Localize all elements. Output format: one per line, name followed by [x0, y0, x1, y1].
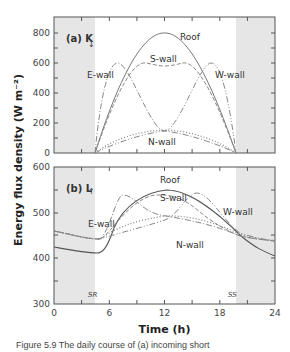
label-b-roof: Roof: [160, 175, 181, 185]
label-b-nwall: N-wall: [176, 240, 204, 250]
panel-a-xticks: [82, 17, 248, 153]
panel-b-arrow: ↑: [88, 187, 95, 196]
xtick-labels: 0 6 12 18 24: [51, 308, 281, 318]
x-axis-label: Time (h): [139, 323, 191, 336]
y-axis-label: Energy flux density (W m⁻²): [12, 74, 25, 246]
label-a-swall: S-wall: [150, 54, 177, 64]
svg-text:400: 400: [33, 88, 50, 98]
svg-text:400: 400: [33, 253, 50, 263]
label-a-ewall: E-wall: [87, 70, 114, 80]
svg-text:500: 500: [33, 208, 50, 218]
label-a-roof: Roof: [180, 32, 201, 42]
svg-text:6: 6: [106, 308, 112, 318]
curve-a-roof: [95, 33, 236, 153]
svg-text:600: 600: [33, 58, 50, 68]
panel-a-ytick-labels: 0 200 400 600 800: [33, 28, 50, 158]
panel-a-curves: [95, 33, 236, 153]
night-shade-evening-a: [236, 17, 275, 153]
label-b-wwall: W-wall: [223, 207, 253, 217]
night-shade-evening-b: [236, 167, 275, 304]
panel-b-ytick-labels: 300 400 500 600: [33, 162, 50, 309]
sunset-label: SS: [228, 291, 237, 299]
panel-a-arrow: ↓: [88, 40, 95, 49]
label-a-nwall: N-wall: [148, 137, 176, 147]
svg-text:24: 24: [269, 308, 281, 318]
figure: (a) K ↓ (b) L ↑ Roof S-wall E-wall W-wal…: [0, 0, 290, 352]
svg-text:0: 0: [44, 148, 50, 158]
label-a-wwall: W-wall: [215, 70, 245, 80]
sunrise-label: SR: [88, 291, 97, 299]
svg-text:18: 18: [214, 308, 226, 318]
label-b-ewall: E-wall: [88, 219, 115, 229]
label-b-swall: S-wall: [160, 193, 187, 203]
svg-text:200: 200: [33, 118, 50, 128]
svg-text:0: 0: [51, 308, 57, 318]
svg-text:600: 600: [33, 162, 50, 172]
svg-text:12: 12: [159, 308, 170, 318]
svg-text:800: 800: [33, 28, 50, 38]
svg-text:300: 300: [33, 299, 50, 309]
figure-caption: Figure 5.9 The daily course of (a) incom…: [16, 340, 209, 350]
